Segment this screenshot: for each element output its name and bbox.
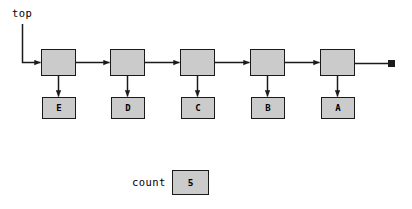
data-box-1: D — [111, 97, 145, 119]
count-value-box: 5 — [172, 170, 209, 195]
data-box-4: A — [321, 97, 355, 119]
stack-linked-list-diagram: top E D C B A count 5 — [0, 0, 412, 209]
node-box-4 — [320, 49, 355, 76]
data-box-0: E — [42, 97, 76, 119]
data-pointer-arrows — [59, 76, 338, 97]
data-box-2: C — [181, 97, 215, 119]
node-box-3 — [250, 49, 285, 76]
top-pointer-arrow — [23, 24, 41, 63]
node-box-0 — [41, 49, 76, 76]
top-label: top — [12, 8, 32, 19]
count-label: count — [132, 177, 166, 188]
node-box-1 — [110, 49, 145, 76]
node-box-2 — [180, 49, 215, 76]
null-terminator-icon — [388, 60, 395, 67]
data-box-3: B — [251, 97, 285, 119]
